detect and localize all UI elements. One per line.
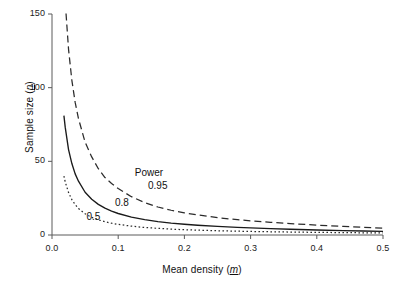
chart-figure: 050100150 0.00.10.20.30.40.5 Power0.950.… — [0, 0, 404, 288]
annotation-0-8: 0.8 — [115, 197, 129, 208]
x-tick-label: 0.0 — [32, 243, 72, 253]
annotation-0-5: 0.5 — [86, 211, 100, 222]
y-axis-title-symbol: n — [24, 85, 35, 91]
x-axis-title-prefix: Mean density ( — [162, 264, 230, 275]
y-axis-title-suffix: ) — [24, 81, 35, 84]
x-tick-label: 0.5 — [363, 243, 403, 253]
x-axis-title-suffix: ) — [238, 264, 241, 275]
x-tick-label: 0.4 — [297, 243, 337, 253]
y-tick-label: 150 — [8, 8, 45, 18]
y-axis-title: Sample size (n) — [19, 37, 37, 197]
x-tick-label: 0.1 — [98, 243, 138, 253]
annotation-power: Power — [135, 167, 163, 178]
x-axis-title: Mean density (m) — [0, 264, 404, 275]
x-tick-label: 0.3 — [231, 243, 271, 253]
annotation-0-95: 0.95 — [148, 180, 167, 191]
y-axis-title-prefix: Sample size ( — [24, 90, 35, 153]
y-axis-title-text: Sample size (n) — [24, 81, 35, 153]
x-tick-label: 0.2 — [164, 243, 204, 253]
y-tick-label: 0 — [8, 229, 45, 239]
